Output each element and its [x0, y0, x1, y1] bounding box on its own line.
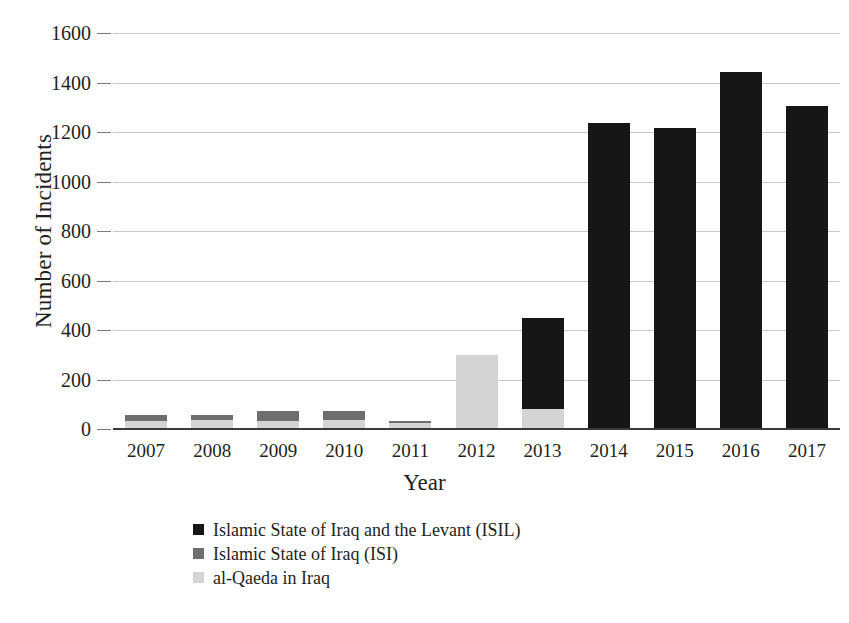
y-tick-label: 400	[21, 319, 91, 342]
bar-2015	[654, 128, 696, 429]
bar-segment-aqi	[456, 355, 498, 429]
x-tick-label: 2011	[392, 440, 429, 462]
legend-label: Islamic State of Iraq and the Levant (IS…	[213, 521, 520, 539]
legend-item: Islamic State of Iraq and the Levant (IS…	[193, 519, 520, 540]
legend-item: Islamic State of Iraq (ISI)	[193, 543, 520, 564]
x-tick-label: 2016	[722, 440, 760, 462]
bar-2012	[456, 355, 498, 429]
bar-segment-isil	[522, 318, 564, 410]
bar-2014	[588, 123, 630, 429]
y-tick-mark	[97, 33, 111, 34]
bar-chart: Number of Incidents 02004006008001000120…	[0, 0, 849, 623]
x-axis-line	[113, 428, 840, 430]
y-tick-label: 0	[21, 418, 91, 441]
bar-segment-isi	[323, 411, 365, 420]
plot-area	[113, 33, 840, 429]
y-tick-mark	[97, 83, 111, 84]
bar-2010	[323, 411, 365, 429]
y-tick-label: 200	[21, 368, 91, 391]
bar-segment-aqi	[522, 409, 564, 429]
x-axis-title: Year	[0, 470, 849, 496]
bar-segment-isi	[257, 411, 299, 421]
x-tick-label: 2017	[788, 440, 826, 462]
bar-2016	[720, 72, 762, 429]
bar-2009	[257, 411, 299, 429]
y-tick-label: 1400	[21, 71, 91, 94]
y-tick-mark	[97, 330, 111, 331]
y-tick-label: 1000	[21, 170, 91, 193]
y-tick-mark	[97, 429, 111, 430]
bar-2008	[191, 415, 233, 429]
x-tick-label: 2013	[524, 440, 562, 462]
bar-segment-isil	[786, 106, 828, 429]
y-tick-mark	[97, 182, 111, 183]
y-tick-label: 1600	[21, 22, 91, 45]
y-tick-mark	[97, 380, 111, 381]
x-tick-label: 2009	[259, 440, 297, 462]
legend-item: al-Qaeda in Iraq	[193, 567, 520, 588]
bar-2013	[522, 318, 564, 429]
legend-swatch-icon	[193, 572, 204, 583]
bar-segment-isil	[720, 72, 762, 429]
legend-swatch-icon	[193, 548, 204, 559]
x-tick-label: 2015	[656, 440, 694, 462]
y-tick-label: 600	[21, 269, 91, 292]
bars-layer	[113, 33, 840, 429]
y-tick-label: 800	[21, 220, 91, 243]
bar-2007	[125, 415, 167, 429]
legend-label: Islamic State of Iraq (ISI)	[213, 545, 398, 563]
chart-legend: Islamic State of Iraq and the Levant (IS…	[193, 519, 520, 591]
x-tick-label: 2008	[193, 440, 231, 462]
y-tick-mark	[97, 231, 111, 232]
bar-segment-isil	[654, 128, 696, 429]
x-tick-label: 2014	[590, 440, 628, 462]
y-tick-mark	[97, 281, 111, 282]
x-tick-label: 2007	[127, 440, 165, 462]
y-tick-mark	[97, 132, 111, 133]
x-tick-label: 2012	[458, 440, 496, 462]
bar-2017	[786, 106, 828, 429]
legend-swatch-icon	[193, 524, 204, 535]
legend-label: al-Qaeda in Iraq	[213, 569, 330, 587]
bar-segment-isil	[588, 123, 630, 429]
x-tick-label: 2010	[325, 440, 363, 462]
y-tick-label: 1200	[21, 121, 91, 144]
